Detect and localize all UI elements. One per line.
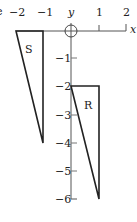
x-tick-label-minus-1: −1 xyxy=(37,6,53,19)
x-tick-label-minus-2: −2 xyxy=(9,6,25,19)
y-tick-label-minus-6: −6 xyxy=(55,193,71,206)
y-tick-label-minus-2: −2 xyxy=(55,80,71,93)
region-r-label: R xyxy=(84,99,93,112)
region-s-label: S xyxy=(25,43,33,56)
y-tick-label-minus-4: −4 xyxy=(55,137,71,150)
x-tick-label-2: 2 xyxy=(123,6,130,19)
y-tick-label-minus-3: −3 xyxy=(55,109,71,122)
y-tick-label-minus-5: −5 xyxy=(55,165,71,178)
diagram-canvas: e −2 −1 1 2 y x −1 −2 −3 −4 −5 −6 S xyxy=(0,0,137,222)
clipped-glyph: e xyxy=(0,5,3,18)
coordinate-diagram: e −2 −1 1 2 y x −1 −2 −3 −4 −5 −6 S xyxy=(0,0,137,222)
x-axis-label: x xyxy=(130,23,137,36)
y-tick-label-minus-1: −1 xyxy=(55,52,71,65)
x-tick-label-1: 1 xyxy=(96,6,103,19)
y-axis-label: y xyxy=(67,6,75,19)
